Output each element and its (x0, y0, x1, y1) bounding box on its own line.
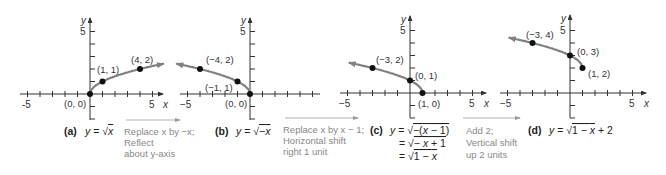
equation-line: = √− x + 1 (399, 137, 446, 149)
y-ticks (570, 31, 575, 119)
equation-line: y = √1 − x + 2 (548, 124, 613, 136)
point-label: (0, 0) (225, 98, 247, 109)
equation-line: = √1 − x (399, 150, 438, 162)
step-text: Vertical shift (466, 137, 518, 148)
final-curve (509, 38, 583, 68)
point-neg3-4 (530, 40, 536, 46)
point-0-1 (407, 78, 413, 84)
x-tick-label-max: 5 (629, 98, 635, 109)
transformation-step-3: Add 2; Vertical shift up 2 units (463, 118, 520, 160)
shifted-curve (349, 63, 423, 93)
x-axis-label: x (643, 98, 650, 109)
graph-panel-d: −5 5 5 x y (1, 2) (0, 3) (−3, 4) (d) y =… (500, 13, 650, 136)
y-tick-label: 5 (400, 25, 406, 36)
step-text: Reflect (124, 137, 154, 148)
x-tick-label-max: 5 (149, 99, 155, 110)
point-label: (−3, 2) (376, 54, 404, 65)
x-tick-label-min: -5 (22, 99, 31, 110)
graph-panel-b: −5 5 y (0, 0) (−1, 1) (−4, 2) (b) y = √−… (176, 15, 320, 137)
point-label: (1, 1) (97, 64, 119, 75)
point-label: (1, 0) (418, 98, 440, 109)
point-label: (−1, 1) (205, 82, 233, 93)
step-text: Replace x by x − 1; (283, 124, 364, 135)
transformation-step-2: Replace x by x − 1; Horizontal shift rig… (283, 118, 364, 157)
step-text: up 2 units (466, 149, 507, 160)
x-tick-label-min: −5 (339, 98, 351, 109)
equation-line: y = √−(x − 1) (389, 124, 449, 136)
point-1-1 (100, 79, 106, 85)
transformation-diagram: -5 5 5 x y (0, 0) (1, 1) (4, 2) (a) y = … (0, 0, 666, 175)
point-label: (0, 3) (577, 46, 599, 57)
panel-tag: (c) (370, 124, 383, 136)
step-text: Horizontal shift (283, 135, 346, 146)
point-label: (4, 2) (131, 54, 153, 65)
y-tick-label: 5 (560, 25, 566, 36)
y-ticks (90, 32, 95, 120)
y-axis-label: y (80, 15, 87, 26)
y-ticks (250, 32, 255, 120)
equation-line: y = √x (84, 125, 114, 137)
point-1-0 (420, 90, 426, 96)
step-text: right 1 unit (283, 146, 328, 157)
point-neg3-2 (370, 65, 376, 71)
step-text: about y-axis (124, 148, 175, 159)
panel-tag: (a) (64, 125, 77, 137)
transformation-step-1: Replace x by −x; Reflect about y-axis (124, 120, 195, 159)
point-label: (−3, 4) (526, 29, 554, 40)
x-tick-label-min: −5 (180, 99, 192, 110)
point-label: (−4, 2) (206, 54, 234, 65)
point-label: (1, 2) (588, 68, 610, 79)
y-tick-label: 5 (80, 26, 86, 37)
x-tick-label-max: 5 (469, 98, 475, 109)
graph-panel-a: -5 5 5 x y (0, 0) (1, 1) (4, 2) (a) y = … (20, 15, 169, 137)
point-label: (0, 0) (64, 98, 86, 109)
x-axis-label: x (483, 98, 490, 109)
x-tick-label-min: −5 (500, 98, 512, 109)
point-origin (87, 91, 93, 97)
equation-line: y = √−x (235, 125, 271, 137)
panel-tag: (b) (215, 125, 228, 137)
y-axis-label: y (560, 13, 567, 24)
point-4-2 (137, 66, 143, 72)
point-origin (247, 91, 253, 97)
point-neg1-1 (235, 79, 241, 85)
point-1-2 (580, 65, 586, 71)
point-label: (0, 1) (415, 70, 437, 81)
point-neg4-2 (197, 66, 203, 72)
step-text: Add 2; (466, 125, 493, 136)
y-tick-label: 5 (240, 26, 246, 37)
panel-tag: (d) (528, 124, 541, 136)
x-axis-label: x (162, 99, 169, 110)
y-axis-label: y (400, 14, 407, 25)
step-text: Replace x by −x; (124, 126, 195, 137)
y-axis-label: y (240, 15, 247, 26)
point-0-3 (567, 53, 573, 59)
